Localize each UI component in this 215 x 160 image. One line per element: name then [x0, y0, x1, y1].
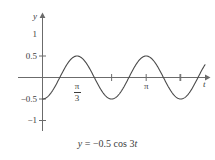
x-axis-label: t — [203, 80, 206, 89]
y-tick-label-neg-1: −1 — [18, 116, 37, 125]
axes-group — [18, 13, 211, 132]
y-tick-label-1: 1 — [20, 30, 37, 39]
plot-canvas — [0, 0, 215, 160]
y-axis-label: y — [33, 12, 37, 21]
x-tick-label-pi-over-3: π 3 — [70, 82, 84, 103]
x-tick-label-pi: π — [139, 82, 153, 91]
fraction-denominator: 3 — [70, 93, 84, 103]
y-axis-arrow — [40, 13, 46, 19]
caption-variable: t — [134, 138, 137, 149]
fraction-numerator: π — [70, 82, 84, 92]
figure-caption: y = −0.5 cos 3t — [0, 139, 215, 149]
figure-container: y t 1 0.5 −0.5 −1 π 3 π y = −0.5 cos 3t — [0, 0, 215, 160]
y-tick-label-neg-0-5: −0.5 — [13, 95, 37, 104]
caption-lhs: y — [78, 138, 82, 149]
y-tick-label-0-5: 0.5 — [15, 52, 37, 61]
caption-rhs: −0.5 cos 3 — [93, 138, 134, 149]
caption-equals: = — [85, 138, 91, 149]
